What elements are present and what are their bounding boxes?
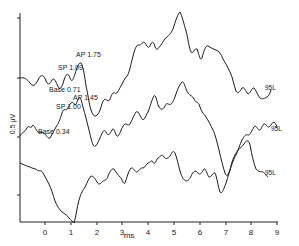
- mid-base-label: Base 0.34: [38, 128, 70, 135]
- bottom-trace-annotations: 95L: [265, 169, 276, 176]
- y-scale-label: 0.5 µV: [9, 113, 17, 134]
- x-tick-label: 8: [249, 228, 254, 237]
- top-ap-label: AP 1.75: [76, 51, 101, 58]
- middle-trace-annotations: AP 1.45 SP 1.00 Base 0.34 95L: [38, 94, 282, 135]
- mid-end-label: 95L: [271, 125, 282, 132]
- x-tick-label: 7: [224, 228, 229, 237]
- x-tick-label: 4: [146, 228, 151, 237]
- bottom-trace: [20, 141, 268, 223]
- x-tick-label: 5: [172, 228, 177, 237]
- abr-waveform-chart: 0 1 2 3 4 5 6 7 8 9 ms 0.5 µV AP 1.75 SP…: [0, 0, 299, 246]
- x-tick-label: 1: [69, 228, 74, 237]
- x-tick-label: 6: [198, 228, 203, 237]
- top-end-label: 95L: [265, 84, 276, 91]
- x-tick-label: 0: [43, 228, 48, 237]
- bot-end-label: 95L: [265, 169, 276, 176]
- x-axis-label: ms: [124, 231, 135, 240]
- x-tick-label: 2: [95, 228, 100, 237]
- mid-ap-label: AP 1.45: [73, 94, 98, 101]
- x-tick-label: 9: [275, 228, 280, 237]
- mid-sp-label: SP 1.00: [56, 103, 81, 110]
- top-trace-annotations: AP 1.75 SP 1.09 Base 0.71 95L: [49, 51, 276, 93]
- axes: 0 1 2 3 4 5 6 7 8 9 ms 0.5 µV: [9, 13, 280, 240]
- top-sp-label: SP 1.09: [58, 64, 83, 71]
- top-base-label: Base 0.71: [49, 86, 81, 93]
